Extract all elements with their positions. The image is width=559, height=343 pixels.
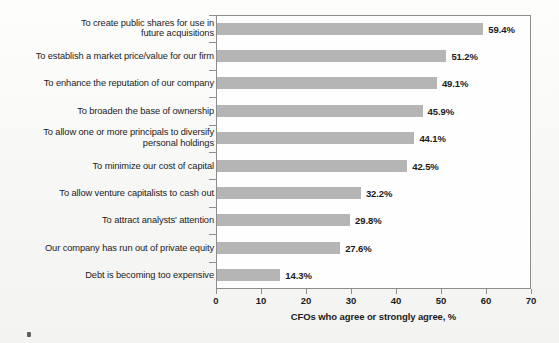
bar-value-label: 32.2% bbox=[366, 188, 392, 199]
chart-row: Debt is becoming too expensive14.3% bbox=[0, 262, 559, 289]
category-label: To create public shares for use in futur… bbox=[8, 18, 214, 39]
x-axis-tick-label: 20 bbox=[301, 295, 312, 306]
y-axis-tick bbox=[209, 207, 216, 208]
x-axis-tick-label: 30 bbox=[346, 295, 357, 306]
x-axis-tick-label: 70 bbox=[526, 295, 537, 306]
bar bbox=[217, 132, 414, 144]
x-axis-title: CFOs who agree or strongly agree, % bbox=[216, 311, 531, 322]
scan-artifact-speck bbox=[27, 332, 31, 337]
bar bbox=[217, 187, 361, 199]
category-label: To minimize our cost of capital bbox=[8, 160, 214, 171]
y-axis-tick bbox=[209, 234, 216, 235]
y-axis-tick bbox=[209, 97, 216, 98]
x-axis-tick bbox=[396, 289, 397, 294]
chart-row: To allow venture capitalists to cash out… bbox=[0, 179, 559, 206]
x-axis-tick bbox=[441, 289, 442, 294]
x-axis-tick bbox=[261, 289, 262, 294]
y-axis-tick bbox=[209, 262, 216, 263]
bar bbox=[217, 50, 446, 62]
category-label: To allow venture capitalists to cash out bbox=[8, 188, 214, 199]
chart-rows: To create public shares for use in futur… bbox=[0, 15, 559, 289]
chart-row: To create public shares for use in futur… bbox=[0, 15, 559, 42]
x-axis: CFOs who agree or strongly agree, % 0102… bbox=[0, 289, 559, 343]
x-axis-tick-label: 0 bbox=[213, 295, 218, 306]
y-axis-tick bbox=[209, 179, 216, 180]
bar-value-label: 49.1% bbox=[442, 78, 468, 89]
chart-row: To broaden the base of ownership45.9% bbox=[0, 97, 559, 124]
category-label: To enhance the reputation of our company bbox=[8, 78, 214, 89]
category-label: To attract analysts' attention bbox=[8, 215, 214, 226]
bar bbox=[217, 242, 340, 254]
bar bbox=[217, 214, 350, 226]
bar bbox=[217, 105, 423, 117]
chart-row: Our company has run out of private equit… bbox=[0, 234, 559, 261]
x-axis-tick bbox=[306, 289, 307, 294]
bar-chart: To create public shares for use in futur… bbox=[0, 0, 559, 343]
x-axis-tick bbox=[351, 289, 352, 294]
x-axis-tick-label: 10 bbox=[256, 295, 267, 306]
x-axis-tick-label: 60 bbox=[481, 295, 492, 306]
y-axis-tick bbox=[209, 125, 216, 126]
bar-value-label: 14.3% bbox=[285, 270, 311, 281]
category-label: To allow one or more principals to diver… bbox=[8, 128, 214, 149]
x-axis-tick bbox=[216, 289, 217, 294]
x-axis-tick-label: 40 bbox=[391, 295, 402, 306]
bar-value-label: 44.1% bbox=[419, 133, 445, 144]
bar-value-label: 27.6% bbox=[345, 242, 371, 253]
y-axis-tick bbox=[209, 42, 216, 43]
chart-row: To establish a market price/value for ou… bbox=[0, 42, 559, 69]
chart-row: To enhance the reputation of our company… bbox=[0, 70, 559, 97]
bar bbox=[217, 269, 280, 281]
y-axis-tick bbox=[209, 15, 216, 16]
category-label: Our company has run out of private equit… bbox=[8, 243, 214, 254]
chart-row: To attract analysts' attention29.8% bbox=[0, 207, 559, 234]
x-axis-tick bbox=[486, 289, 487, 294]
category-label: Debt is becoming too expensive bbox=[8, 270, 214, 281]
y-axis-tick bbox=[209, 152, 216, 153]
bar bbox=[217, 23, 483, 35]
x-axis-tick bbox=[531, 289, 532, 294]
x-axis-tick-label: 50 bbox=[436, 295, 447, 306]
chart-row: To allow one or more principals to diver… bbox=[0, 125, 559, 152]
y-axis-tick bbox=[209, 70, 216, 71]
category-label: To broaden the base of ownership bbox=[8, 106, 214, 117]
bar-value-label: 42.5% bbox=[412, 160, 438, 171]
chart-row: To minimize our cost of capital42.5% bbox=[0, 152, 559, 179]
bar-value-label: 29.8% bbox=[355, 215, 381, 226]
bar-value-label: 45.9% bbox=[428, 105, 454, 116]
bar bbox=[217, 160, 407, 172]
bar-value-label: 51.2% bbox=[451, 51, 477, 62]
category-label: To establish a market price/value for ou… bbox=[8, 51, 214, 62]
bar-value-label: 59.4% bbox=[488, 23, 514, 34]
bar bbox=[217, 77, 437, 89]
